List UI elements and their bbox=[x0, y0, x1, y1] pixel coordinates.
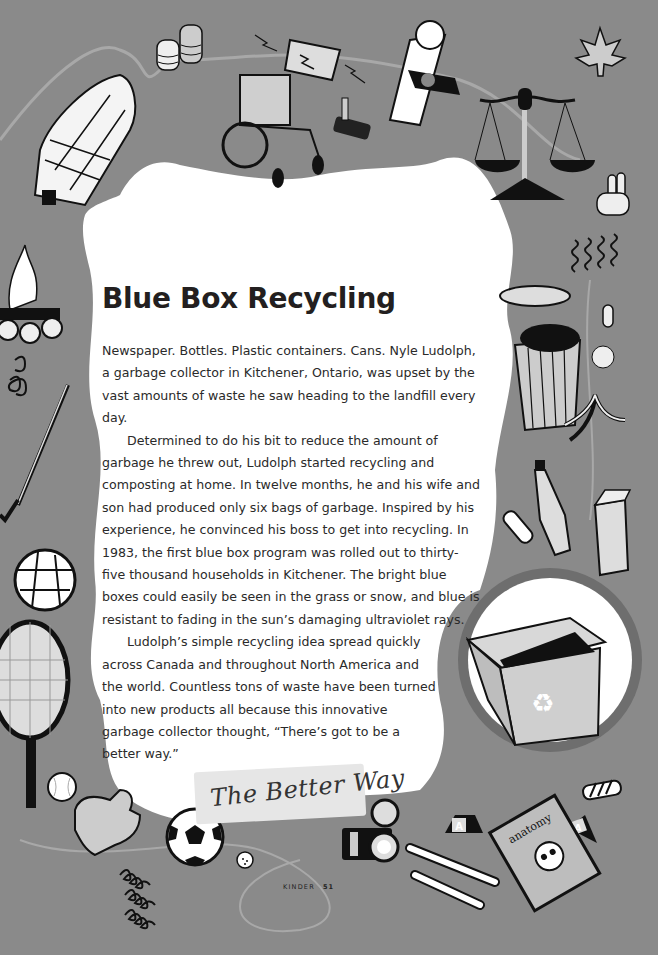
article-body: Newspaper. Bottles. Plastic containers. … bbox=[102, 340, 482, 766]
squiggles-icon bbox=[572, 234, 617, 272]
article-title: Blue Box Recycling bbox=[102, 282, 396, 315]
bones-icon bbox=[410, 848, 495, 905]
longhouse-icon bbox=[35, 75, 135, 205]
baseball-icon bbox=[48, 773, 76, 801]
can-icon bbox=[582, 780, 622, 800]
paragraph-1: Newspaper. Bottles. Plastic containers. … bbox=[102, 340, 480, 430]
book-title: KINDER bbox=[283, 883, 315, 891]
maple-leaf-icon bbox=[576, 28, 625, 76]
spring-coil-icon bbox=[9, 357, 26, 395]
page-footer: KINDER51 bbox=[283, 883, 334, 891]
baseball-glove-icon bbox=[75, 790, 140, 855]
golf-club-icon bbox=[0, 385, 68, 520]
can-icon bbox=[501, 509, 535, 546]
paragraph-2: Determined to do his bit to reduce the a… bbox=[102, 430, 480, 632]
page-number: 51 bbox=[323, 883, 334, 891]
svg-text:A: A bbox=[455, 821, 463, 832]
paragraph-3: Ludolph’s simple recycling idea spread q… bbox=[102, 631, 442, 765]
letter-block-icon: A bbox=[445, 815, 483, 833]
volleyball-icon bbox=[15, 550, 75, 610]
milk-carton-icon bbox=[595, 490, 630, 575]
peace-hand-icon bbox=[597, 173, 629, 215]
joystick-icon bbox=[333, 98, 372, 140]
crumpled-paper-icon bbox=[592, 346, 614, 368]
springs-icon bbox=[120, 870, 155, 928]
campfire-icon bbox=[0, 245, 62, 343]
golf-ball-icon bbox=[237, 852, 253, 868]
pottery-vases-icon bbox=[157, 25, 202, 70]
anatomy-book-icon: anatomy bbox=[490, 795, 600, 910]
svg-text:♻: ♻ bbox=[531, 688, 554, 718]
wheelchair-icon bbox=[223, 75, 324, 188]
balance-scale-icon bbox=[475, 88, 595, 200]
book-page: ♻ bbox=[0, 0, 658, 955]
apple-core-icon bbox=[603, 305, 613, 327]
scroll-diploma-icon bbox=[390, 21, 460, 125]
bottle-icon bbox=[535, 460, 570, 555]
